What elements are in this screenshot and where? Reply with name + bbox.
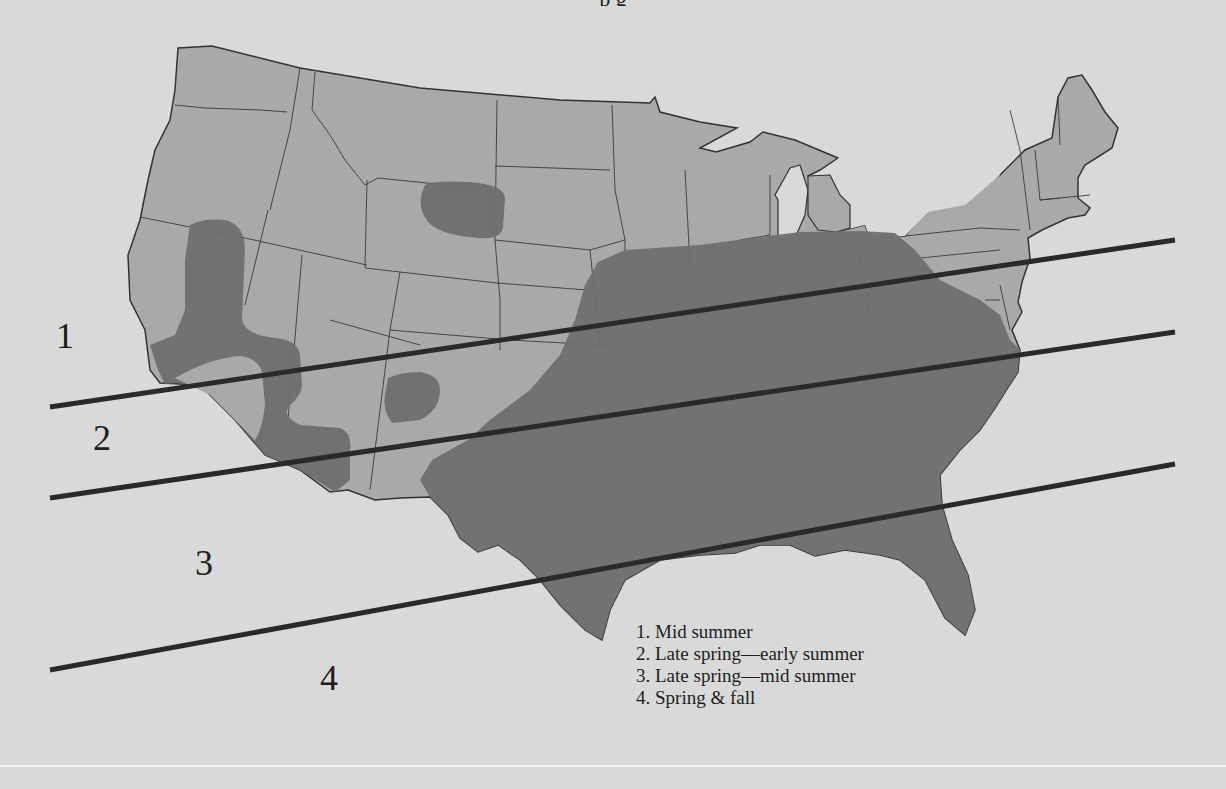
legend-item-4: 4. Spring & fall [636,687,864,709]
map-figure: p g [0,0,1226,789]
legend: 1. Mid summer 2. Late spring—early summe… [636,621,864,709]
bottom-divider [0,765,1226,767]
legend-item-2: 2. Late spring—early summer [636,643,864,665]
zone-label-4: 4 [320,660,338,696]
zone-label-1: 1 [56,318,74,354]
legend-item-3: 3. Late spring—mid summer [636,665,864,687]
us-map [0,0,1226,789]
zone-label-3: 3 [195,545,213,581]
lower-michigan [808,175,850,232]
legend-item-1: 1. Mid summer [636,621,864,643]
zone-label-2: 2 [93,420,111,456]
